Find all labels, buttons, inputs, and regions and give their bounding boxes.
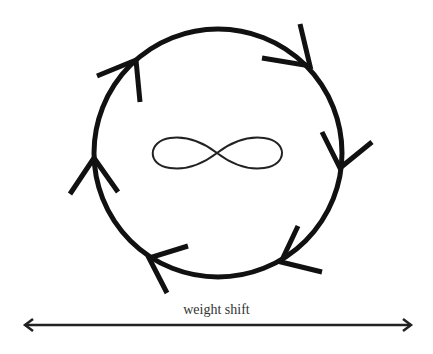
arrowhead-right-icon — [322, 132, 372, 168]
cycle-diagram — [0, 0, 433, 354]
axis-label: weight shift — [0, 302, 433, 318]
infinity-icon — [153, 138, 282, 169]
weight-shift-axis — [25, 319, 411, 331]
arrowheads — [70, 24, 372, 293]
